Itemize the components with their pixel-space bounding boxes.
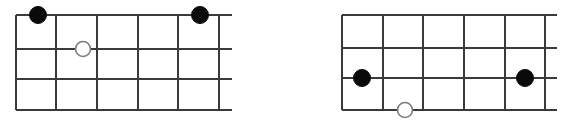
vertical-grid-lines bbox=[16, 15, 219, 110]
diagram-canvas bbox=[0, 0, 570, 120]
open-node-marker-icon[interactable] bbox=[398, 103, 413, 118]
filled-node-marker-icon[interactable] bbox=[354, 70, 371, 87]
open-node-marker-icon[interactable] bbox=[76, 42, 91, 57]
left-grid-diagram bbox=[16, 7, 232, 111]
filled-node-marker-icon[interactable] bbox=[30, 7, 47, 24]
right-grid-diagram bbox=[342, 15, 557, 118]
filled-node-marker-icon[interactable] bbox=[192, 7, 209, 24]
horizontal-grid-lines bbox=[342, 15, 557, 110]
diagram-svg-root bbox=[0, 0, 570, 120]
vertical-grid-lines bbox=[342, 15, 545, 110]
horizontal-grid-lines bbox=[16, 15, 232, 110]
filled-node-marker-icon[interactable] bbox=[517, 70, 534, 87]
